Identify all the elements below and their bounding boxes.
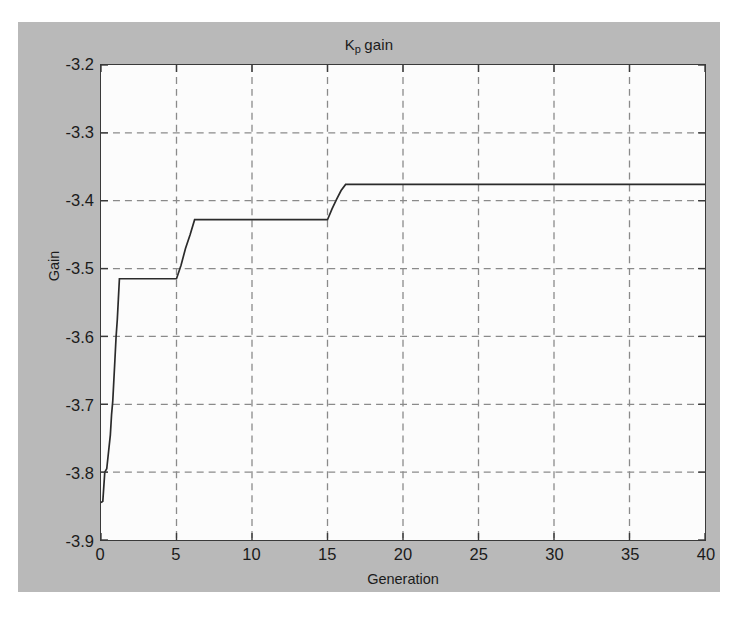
x-tick-label: 10 — [242, 545, 260, 564]
x-tick-label: 30 — [545, 545, 563, 564]
x-axis-tick-labels: 0510152025303540 — [100, 545, 706, 571]
chart-title: Kpgain — [18, 36, 720, 55]
figure-panel: Kpgain -3.2-3.3-3.4-3.5-3.6-3.7-3.8-3.9 … — [18, 22, 720, 592]
y-tick-label: -3.2 — [66, 55, 94, 74]
tick-mark-layer — [101, 65, 705, 540]
plot-axes — [100, 64, 706, 541]
x-tick-label: 40 — [697, 545, 715, 564]
x-tick-label: 0 — [95, 545, 104, 564]
y-tick-label: -3.9 — [66, 532, 94, 551]
x-tick-label: 5 — [171, 545, 180, 564]
y-tick-label: -3.6 — [66, 327, 94, 346]
x-tick-label: 20 — [394, 545, 412, 564]
y-tick-label: -3.5 — [66, 259, 94, 278]
x-tick-label: 15 — [318, 545, 336, 564]
y-tick-label: -3.4 — [66, 191, 94, 210]
x-tick-label: 35 — [621, 545, 639, 564]
chart-title-tail: gain — [364, 36, 393, 53]
chart-title-base: K — [345, 36, 355, 53]
y-tick-label: -3.3 — [66, 123, 94, 142]
y-tick-label: -3.8 — [66, 463, 94, 482]
x-tick-label: 25 — [470, 545, 488, 564]
x-axis-label: Generation — [100, 571, 706, 587]
y-tick-label: -3.7 — [66, 395, 94, 414]
y-axis-label: Gain — [46, 221, 62, 311]
chart-title-subscript: p — [355, 43, 361, 55]
